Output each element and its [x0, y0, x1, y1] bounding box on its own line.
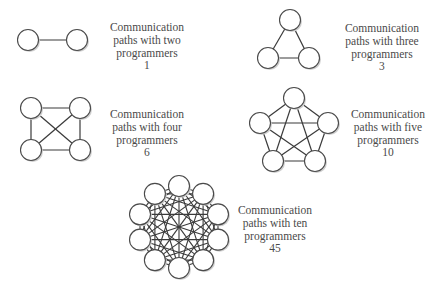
label-line-2: paths with four: [110, 121, 184, 134]
programmer-node: [207, 229, 228, 250]
programmer-node: [70, 98, 91, 119]
label-line-3: programmers: [238, 230, 312, 243]
label-line-1: Communication: [110, 108, 184, 121]
label-line-3: programmers: [110, 47, 184, 60]
programmer-node: [130, 229, 151, 250]
graph-ten-programmers: [130, 176, 230, 281]
label-five-programmers: Communication paths with five programmer…: [351, 108, 425, 159]
programmer-node: [299, 48, 320, 69]
label-four-programmers: Communication paths with four programmer…: [110, 108, 184, 159]
programmer-node: [193, 183, 214, 204]
programmer-node: [318, 113, 339, 134]
programmer-node: [280, 10, 301, 31]
graph-three-programmers: [258, 10, 322, 71]
label-line-3: programmers: [351, 134, 425, 147]
programmer-node: [21, 140, 42, 161]
programmer-node: [70, 140, 91, 161]
programmer-node: [207, 204, 228, 225]
path-count: 3: [345, 60, 419, 73]
path-count: 6: [110, 146, 184, 159]
graph-five-programmers: [250, 88, 341, 174]
label-three-programmers: Communication paths with three programme…: [345, 22, 419, 73]
label-line-1: Communication: [110, 21, 184, 34]
graph-two-programmers: [18, 30, 90, 53]
programmer-node: [250, 113, 271, 134]
programmer-node: [144, 250, 165, 271]
label-line-3: programmers: [345, 48, 419, 61]
label-line-1: Communication: [238, 204, 312, 217]
label-line-2: paths with two: [110, 34, 184, 47]
programmer-node: [193, 250, 214, 271]
label-line-2: paths with three: [345, 35, 419, 48]
programmer-node: [169, 176, 190, 197]
graph-four-programmers: [21, 98, 93, 163]
label-line-1: Communication: [345, 22, 419, 35]
label-line-2: paths with five: [351, 121, 425, 134]
label-two-programmers: Communication paths with two programmers…: [110, 21, 184, 72]
path-count: 45: [238, 242, 312, 255]
programmer-node: [144, 183, 165, 204]
programmer-node: [67, 30, 88, 51]
programmer-node: [258, 48, 279, 69]
label-line-2: paths with ten: [238, 217, 312, 230]
path-count: 10: [351, 146, 425, 159]
label-line-1: Communication: [351, 108, 425, 121]
programmer-node: [21, 98, 42, 119]
label-ten-programmers: Communication paths with ten programmers…: [238, 204, 312, 255]
programmer-node: [18, 30, 39, 51]
path-count: 1: [110, 59, 184, 72]
label-line-3: programmers: [110, 134, 184, 147]
programmer-node: [169, 258, 190, 279]
programmer-node: [130, 204, 151, 225]
programmer-node: [305, 151, 326, 172]
programmer-node: [263, 151, 284, 172]
programmer-node: [284, 88, 305, 109]
